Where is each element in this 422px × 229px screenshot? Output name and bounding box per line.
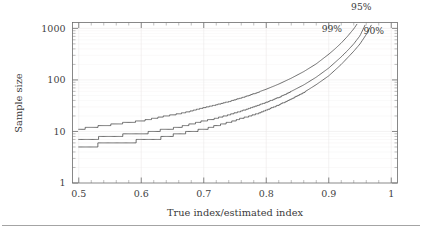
- x-tick-label: 0.6: [134, 188, 149, 199]
- series-label-99pct: 99%: [322, 23, 343, 34]
- curve-group: [79, 24, 372, 147]
- sample-size-chart: 1101001000 0.50.60.70.80.91 95%99%90% Tr…: [0, 0, 422, 229]
- y-tick-label: 1000: [41, 23, 65, 34]
- y-tick-label: 10: [53, 126, 65, 137]
- x-tick-label: 0.7: [196, 188, 211, 199]
- axis-ticks: [73, 23, 398, 184]
- y-axis-title: Sample size: [13, 73, 24, 132]
- series-label-90pct: 90%: [364, 25, 385, 36]
- chart-figure: 1101001000 0.50.60.70.80.91 95%99%90% Tr…: [0, 0, 422, 229]
- y-tick-labels: 1101001000: [41, 23, 65, 189]
- plot-frame: [73, 23, 398, 184]
- x-tick-label: 0.8: [259, 188, 274, 199]
- y-tick-label: 100: [47, 74, 65, 85]
- x-tick-labels: 0.50.60.70.80.91: [71, 188, 394, 199]
- x-tick-label: 1: [388, 188, 394, 199]
- x-tick-label: 0.9: [321, 188, 336, 199]
- series-label-95pct: 95%: [351, 1, 372, 12]
- x-tick-label: 0.5: [71, 188, 86, 199]
- curve-90pct: [79, 25, 372, 147]
- x-axis-title: True index/estimated index: [167, 207, 303, 218]
- y-tick-label: 1: [59, 177, 65, 188]
- grid-lines: [73, 23, 398, 184]
